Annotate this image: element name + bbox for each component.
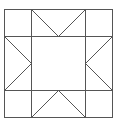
- quilt-block-diagram: [0, 0, 121, 124]
- star-point-bottom: [32, 91, 86, 118]
- star-point-right: [86, 37, 113, 91]
- star-point-left: [5, 37, 32, 91]
- outer-square: [5, 10, 113, 118]
- star-point-top: [32, 10, 86, 37]
